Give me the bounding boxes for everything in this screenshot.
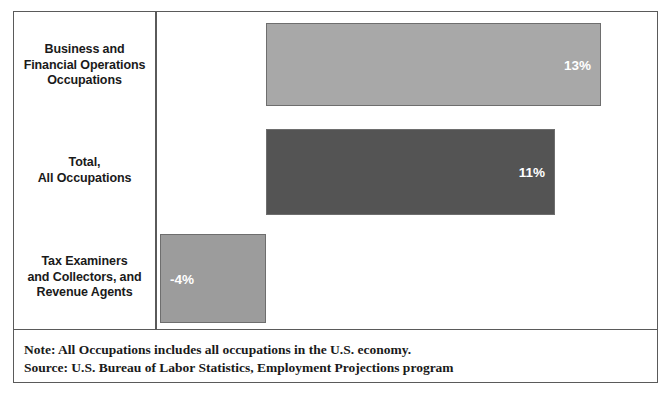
category-label-line: All Occupations [18, 171, 151, 187]
bar-total-all-occupations: 11% [266, 129, 555, 215]
category-label-line: Revenue Agents [18, 285, 151, 301]
bar-tax-examiners: -4% [160, 234, 266, 323]
bar-value-label: 11% [519, 165, 545, 180]
category-label-business-financial: Business and Financial Operations Occupa… [18, 42, 151, 89]
bar-business-financial: 13% [266, 23, 601, 106]
category-label-line: Financial Operations [18, 58, 151, 74]
chart-footnote: Note: All Occupations includes all occup… [14, 330, 657, 382]
category-label-line: and Collectors, and [18, 270, 151, 286]
footnote-source: Source: U.S. Bureau of Labor Statistics,… [24, 359, 657, 377]
category-label-line: Occupations [18, 73, 151, 89]
footnote-note: Note: All Occupations includes all occup… [24, 341, 657, 359]
bar-value-label: -4% [170, 271, 194, 286]
category-label-tax-examiners: Tax Examiners and Collectors, and Revenu… [18, 254, 151, 301]
category-label-line: Business and [18, 42, 151, 58]
category-label-total-all-occupations: Total, All Occupations [18, 155, 151, 186]
plot-area: Business and Financial Operations Occupa… [14, 12, 657, 330]
bar-value-label: 13% [564, 57, 591, 72]
chart-figure: Business and Financial Operations Occupa… [13, 11, 658, 383]
category-label-line: Total, [18, 155, 151, 171]
category-label-line: Tax Examiners [18, 254, 151, 270]
category-axis-divider [155, 12, 157, 329]
